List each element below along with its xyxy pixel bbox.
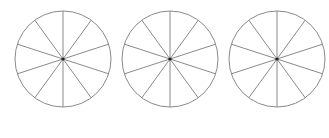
sector-divider <box>35 59 63 98</box>
sector-divider <box>124 59 170 74</box>
center-dot <box>168 57 171 60</box>
sector-divider <box>35 20 63 59</box>
sector-divider <box>63 20 91 59</box>
sector-divider <box>124 44 170 59</box>
sector-divider <box>277 59 305 98</box>
sector-divider <box>277 44 323 59</box>
sector-divider <box>170 44 216 59</box>
sector-divider <box>231 59 277 74</box>
sector-divider <box>142 59 170 98</box>
sector-divider <box>63 44 109 59</box>
fraction-circles-diagram <box>0 0 329 138</box>
center-dot <box>61 57 64 60</box>
sector-divider <box>170 20 198 59</box>
sector-divider <box>277 20 305 59</box>
sector-divider <box>17 44 63 59</box>
fraction-circle-2 <box>122 11 218 107</box>
center-dot <box>275 57 278 60</box>
fraction-circle-1 <box>15 11 111 107</box>
sector-divider <box>249 59 277 98</box>
sector-divider <box>249 20 277 59</box>
sector-divider <box>63 59 91 98</box>
sector-divider <box>277 59 323 74</box>
sector-divider <box>142 20 170 59</box>
sector-divider <box>63 59 109 74</box>
sector-divider <box>170 59 198 98</box>
fraction-circle-3 <box>229 11 325 107</box>
sector-divider <box>17 59 63 74</box>
sector-divider <box>170 59 216 74</box>
sector-divider <box>231 44 277 59</box>
